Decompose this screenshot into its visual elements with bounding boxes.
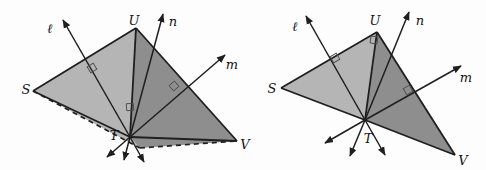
left-figure-label-vertex-S: S [22, 82, 31, 97]
right-figure-label-line-n: n [416, 13, 424, 28]
left-figure-label-line-l: ℓ [47, 21, 53, 36]
right-figure-label-line-l: ℓ [292, 19, 298, 34]
left-figure-label-line-m: m [226, 57, 238, 72]
left-figure-light-plane-face [33, 28, 140, 148]
right-figure-label-vertex-V: V [458, 153, 469, 168]
geometry-diagram: ℓUnmSTVℓUnmSTV [0, 0, 486, 170]
left-figure-label-line-n: n [169, 14, 177, 29]
right-figure-label-vertex-T: T [364, 131, 374, 146]
left-figure-label-vertex-T: T [110, 128, 120, 143]
left-figure-label-vertex-U: U [129, 13, 141, 28]
left-figure: ℓUnmSTV [22, 13, 252, 163]
diagram-canvas: ℓUnmSTVℓUnmSTV [0, 0, 486, 170]
right-figure-label-vertex-U: U [370, 13, 382, 28]
right-figure-label-vertex-S: S [268, 81, 277, 96]
left-figure-dark-plane-face [130, 28, 237, 148]
right-figure: ℓUnmSTV [268, 12, 473, 168]
right-figure-label-line-m: m [460, 70, 472, 85]
right-figure-ray-m-down [325, 120, 365, 143]
left-figure-label-vertex-V: V [240, 137, 251, 152]
